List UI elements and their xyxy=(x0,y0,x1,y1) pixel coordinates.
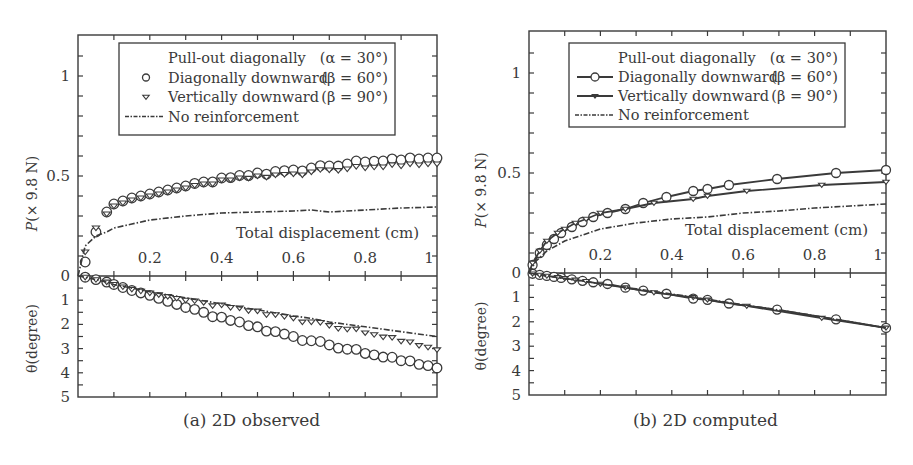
circle-marker xyxy=(181,303,191,313)
circle-marker xyxy=(289,332,299,342)
series-line-triangles xyxy=(529,180,889,330)
triangle-marker xyxy=(389,336,396,341)
triangle-marker xyxy=(433,348,440,353)
x-axis-label: Total displacement (cm) xyxy=(685,221,868,239)
circle-marker xyxy=(432,363,442,373)
legend-param: (β = 90°) xyxy=(771,88,838,104)
triangle-marker xyxy=(651,201,657,205)
y-tick-label: 0 xyxy=(511,264,521,282)
x-tick-label: 0.6 xyxy=(281,249,305,267)
circle-marker xyxy=(360,157,370,167)
triangle-marker xyxy=(299,320,306,325)
circle-marker xyxy=(423,361,433,371)
triangle-marker xyxy=(424,162,431,167)
y-axis-label-symbol: P xyxy=(473,218,489,229)
triangle-marker xyxy=(389,163,396,168)
circle-marker xyxy=(387,352,397,362)
legend-param: (β = 60°) xyxy=(771,69,838,85)
theta-tick-label: 5 xyxy=(511,386,521,404)
triangle-marker xyxy=(209,304,216,309)
triangle-marker xyxy=(424,345,431,350)
caption-a: (a) 2D observed xyxy=(183,410,320,430)
legend-label: Diagonally downward xyxy=(168,70,328,86)
triangle-marker xyxy=(371,333,378,338)
y-axis-label-symbol: P xyxy=(24,221,40,232)
triangle-marker xyxy=(326,324,333,329)
legend-label: No reinforcement xyxy=(618,107,749,123)
triangle-marker xyxy=(415,163,422,168)
legend-label: Vertically downward xyxy=(617,88,769,104)
triangle-marker xyxy=(353,165,360,170)
triangle-marker xyxy=(398,164,405,169)
circle-marker xyxy=(143,74,150,81)
panel-observed: 0.20.40.60.81Total displacement (cm)00.5… xyxy=(24,35,442,406)
triangle-marker xyxy=(317,320,324,325)
triangle-marker xyxy=(380,165,387,170)
circle-marker xyxy=(662,193,671,202)
x-axis-label: Total displacement (cm) xyxy=(236,224,419,242)
x-tick-label: 0.4 xyxy=(660,246,684,264)
circle-marker xyxy=(342,344,352,354)
legend-param: (α = 30°) xyxy=(320,50,388,66)
y-tick-label: 1 xyxy=(511,64,521,82)
circle-marker xyxy=(405,356,415,366)
triangle-marker xyxy=(883,180,889,184)
circle-marker xyxy=(307,336,317,346)
x-tick-label: 0.2 xyxy=(138,249,162,267)
legend-param: (α = 30°) xyxy=(770,50,838,66)
y-axis-label-unit: (× 9.8 N) xyxy=(24,156,40,222)
circle-marker xyxy=(432,153,442,163)
circle-marker xyxy=(280,329,290,339)
circle-marker xyxy=(387,154,397,164)
y-tick-label: 0 xyxy=(60,267,70,285)
circle-marker xyxy=(369,350,379,360)
circle-marker xyxy=(689,187,698,196)
circle-marker xyxy=(882,166,891,175)
triangle-marker xyxy=(263,313,270,318)
x-tick-label: 0.8 xyxy=(353,249,377,267)
legend-label: No reinforcement xyxy=(168,109,299,125)
legend-label: Pull-out diagonally xyxy=(168,50,307,66)
triangle-marker xyxy=(335,327,342,332)
caption-b: (b) 2D computed xyxy=(633,410,778,430)
legend-param: (β = 60°) xyxy=(321,70,388,86)
series-circles xyxy=(80,153,441,373)
x-tick-label: 1 xyxy=(424,249,434,267)
circle-marker xyxy=(271,327,281,337)
panel-computed: 0.20.40.60.81Total displacement (cm)00.5… xyxy=(473,31,891,404)
triangle-marker xyxy=(362,331,369,336)
triangle-marker xyxy=(406,340,413,345)
triangle-marker xyxy=(290,316,297,321)
circle-marker xyxy=(226,316,236,326)
theta-tick-label: 1 xyxy=(60,291,70,309)
x-tick-label: 1 xyxy=(873,246,883,264)
triangle-marker xyxy=(415,344,422,349)
y-axis-label-unit: (× 9.8 N) xyxy=(473,152,489,218)
figure-canvas: 0.20.40.60.81Total displacement (cm)00.5… xyxy=(0,0,913,465)
circle-marker xyxy=(360,349,370,359)
legend-param: (β = 90°) xyxy=(321,89,388,105)
circle-marker xyxy=(396,356,406,366)
triangle-marker xyxy=(819,183,825,187)
circle-marker xyxy=(423,153,433,163)
triangle-marker xyxy=(704,194,710,198)
circle-marker xyxy=(244,321,254,331)
circle-marker xyxy=(405,153,415,163)
y-tick-label: 1 xyxy=(60,67,70,85)
circle-marker xyxy=(190,305,200,315)
triangle-marker xyxy=(398,339,405,344)
circle-marker xyxy=(378,156,388,166)
circle-marker xyxy=(369,156,379,166)
circle-marker xyxy=(298,336,308,346)
triangle-marker xyxy=(362,166,369,171)
triangle-marker xyxy=(744,189,750,193)
circle-marker xyxy=(773,175,782,184)
circle-marker xyxy=(591,73,599,81)
triangle-marker xyxy=(690,197,696,201)
circle-marker xyxy=(199,308,209,318)
circle-marker xyxy=(333,343,343,353)
circle-marker xyxy=(414,154,424,164)
y-axis-label-force: P(× 9.8 N) xyxy=(24,156,40,233)
circle-marker xyxy=(316,337,326,347)
circle-marker xyxy=(208,312,218,322)
